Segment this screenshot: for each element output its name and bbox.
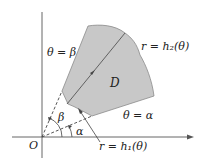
label-theta-beta: θ = β [47, 47, 76, 58]
label-r-h2: r = h₂(θ) [141, 41, 189, 52]
region-d [62, 25, 154, 116]
label-r-h1: r = h₁(θ) [99, 141, 147, 152]
label-region-d: D [110, 77, 120, 89]
x-axis-arrow-icon [187, 135, 194, 140]
label-theta-alpha: θ = α [123, 110, 153, 121]
label-angle-beta: β [58, 112, 64, 123]
label-origin: O [29, 140, 38, 151]
label-angle-alpha: α [76, 126, 83, 137]
